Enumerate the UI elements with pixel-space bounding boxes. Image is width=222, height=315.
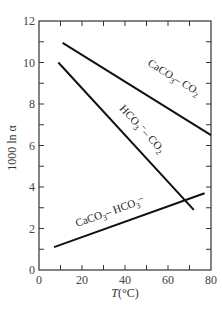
x-axis-title-unit: (°C) xyxy=(118,286,139,300)
x-tick-label: 60 xyxy=(162,273,174,287)
y-tick-label: 4 xyxy=(29,180,35,194)
y-tick-label: 8 xyxy=(29,97,35,111)
y-tick-label: 10 xyxy=(23,56,35,70)
label-text: CaCO xyxy=(74,208,104,229)
series-label-hco3-co2: HCO3⁻– CO2 xyxy=(115,102,167,157)
x-tick-label: 0 xyxy=(36,273,42,287)
x-axis-title: T(°C) xyxy=(111,286,138,300)
x-tick-label: 40 xyxy=(119,273,131,287)
series-label-caco3-co2: CaCO3– CO2 xyxy=(144,56,202,100)
axes xyxy=(39,21,211,270)
fractionation-chart: 020406080024681012 CaCO3– CO2 HCO3⁻– CO2… xyxy=(0,0,222,315)
series-labels: CaCO3– CO2 HCO3⁻– CO2 CaCO3– HCO3⁻ xyxy=(74,56,203,231)
y-tick-label: 0 xyxy=(29,263,35,277)
y-tick-label: 12 xyxy=(23,14,35,28)
x-tick-label: 80 xyxy=(205,273,217,287)
ticks: 020406080024681012 xyxy=(23,14,217,287)
label-text: – HCO xyxy=(102,197,137,219)
y-tick-label: 6 xyxy=(29,139,35,153)
x-tick-label: 20 xyxy=(76,273,88,287)
y-axis-title: 1000 ln α xyxy=(5,124,19,170)
y-tick-label: 2 xyxy=(29,222,35,236)
plot-frame xyxy=(39,21,211,270)
series-line-1 xyxy=(58,63,193,210)
